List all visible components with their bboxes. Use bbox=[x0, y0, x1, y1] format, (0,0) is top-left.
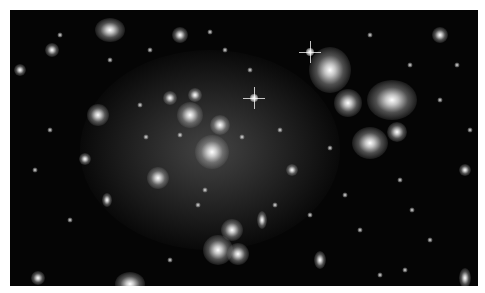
faint-galaxy bbox=[223, 48, 228, 53]
faint-galaxy bbox=[196, 203, 201, 208]
galaxy bbox=[314, 251, 326, 269]
faint-galaxy bbox=[208, 30, 213, 35]
faint-galaxy bbox=[248, 68, 253, 73]
faint-galaxy bbox=[68, 218, 73, 223]
galaxy-cluster-image bbox=[10, 10, 478, 286]
faint-galaxy bbox=[428, 238, 433, 243]
galaxy bbox=[352, 127, 388, 159]
faint-galaxy bbox=[48, 128, 53, 133]
faint-galaxy bbox=[410, 208, 415, 213]
faint-galaxy bbox=[178, 133, 183, 138]
faint-galaxy bbox=[438, 98, 443, 103]
faint-galaxy bbox=[343, 193, 348, 198]
galaxy bbox=[102, 193, 112, 207]
galaxy bbox=[459, 164, 471, 176]
faint-galaxy bbox=[308, 213, 313, 218]
faint-galaxy bbox=[403, 268, 408, 273]
galaxy bbox=[45, 43, 59, 57]
foreground-star bbox=[243, 87, 265, 109]
galaxy bbox=[147, 167, 169, 189]
galaxy bbox=[31, 271, 45, 285]
faint-galaxy bbox=[408, 63, 413, 68]
faint-galaxy bbox=[203, 188, 208, 193]
faint-galaxy bbox=[240, 135, 245, 140]
galaxy bbox=[172, 27, 188, 43]
galaxy bbox=[87, 104, 109, 126]
galaxy bbox=[387, 122, 407, 142]
faint-galaxy bbox=[328, 146, 333, 151]
galaxy bbox=[195, 135, 229, 169]
faint-galaxy bbox=[168, 258, 173, 263]
faint-galaxy bbox=[273, 203, 278, 208]
faint-galaxy bbox=[455, 63, 460, 68]
galaxy bbox=[188, 88, 202, 102]
faint-galaxy bbox=[468, 128, 473, 133]
galaxy bbox=[115, 272, 145, 286]
galaxy bbox=[14, 64, 26, 76]
galaxy bbox=[432, 27, 448, 43]
galaxy bbox=[286, 164, 298, 176]
faint-galaxy bbox=[33, 168, 38, 173]
faint-galaxy bbox=[398, 178, 403, 183]
galaxy bbox=[257, 211, 267, 229]
faint-galaxy bbox=[148, 48, 153, 53]
faint-galaxy bbox=[378, 273, 383, 278]
galaxy bbox=[334, 89, 362, 117]
galaxy bbox=[95, 18, 125, 42]
foreground-star bbox=[299, 41, 321, 63]
faint-galaxy bbox=[368, 33, 373, 38]
faint-galaxy bbox=[138, 103, 143, 108]
galaxy bbox=[79, 153, 91, 165]
galaxy bbox=[163, 91, 177, 105]
galaxy bbox=[367, 80, 417, 120]
faint-galaxy bbox=[278, 128, 283, 133]
faint-galaxy bbox=[108, 58, 113, 63]
galaxy bbox=[459, 268, 471, 286]
galaxy bbox=[210, 115, 230, 135]
faint-galaxy bbox=[58, 33, 63, 38]
galaxy bbox=[227, 243, 249, 265]
faint-galaxy bbox=[358, 228, 363, 233]
galaxy bbox=[177, 102, 203, 128]
faint-galaxy bbox=[144, 135, 149, 140]
